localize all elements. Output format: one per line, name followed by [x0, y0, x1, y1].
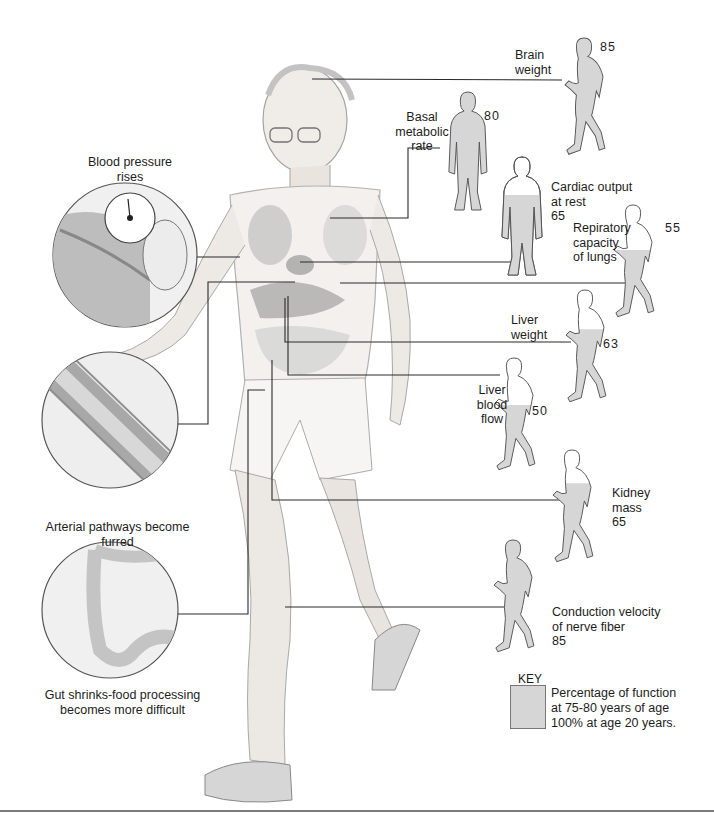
label-kidney-mass: Kidney mass 65 [612, 486, 650, 530]
label-blood-pressure: Blood pressure rises [60, 155, 200, 184]
label-line: of nerve fiber [552, 620, 660, 635]
value-liver-weight: 63 [603, 337, 619, 351]
label-line: Blood pressure [60, 155, 200, 170]
label-line: becomes more difficult [35, 703, 210, 718]
key-line: Percentage of function [551, 686, 676, 701]
label-liver-weight: Liver weight [511, 313, 547, 342]
figure-cardiac-output [502, 157, 542, 275]
label-line: of lungs [573, 250, 631, 265]
label-line: furred [35, 535, 200, 550]
label-respiratory-capacity: Repiratory capacity of lungs [573, 221, 631, 265]
value-liver-blood-flow: 50 [532, 404, 548, 418]
label-line: flow [470, 412, 514, 427]
label-line: Arterial pathways become [35, 520, 200, 535]
label-brain-weight: Brain weight [515, 48, 551, 77]
key-title: KEY [518, 672, 542, 686]
label-cardiac-output: Cardiac output at rest 65 [551, 180, 632, 224]
label-line: rises [60, 170, 200, 185]
label-line: Gut shrinks-food processing [35, 688, 210, 703]
figure-brain-weight [565, 38, 605, 154]
key-line: at 75-80 years of age [551, 701, 676, 716]
label-nerve-conduction: Conduction velocity of nerve fiber 85 [552, 605, 660, 649]
key-swatch [510, 685, 546, 729]
value-basal-metabolic-rate: 80 [484, 109, 500, 123]
label-line: Basal [392, 110, 452, 125]
label-line: Cardiac output [551, 180, 632, 195]
label-line: Brain [515, 48, 551, 63]
value-brain-weight: 85 [600, 40, 616, 54]
label-line: weight [515, 63, 551, 78]
label-line: weight [511, 328, 547, 343]
label-line: Repiratory [573, 221, 631, 236]
label-line: Liver [470, 383, 514, 398]
label-gut: Gut shrinks-food processing becomes more… [35, 688, 210, 717]
value-respiratory-capacity: 55 [665, 221, 681, 235]
label-line: metabolic [392, 125, 452, 140]
label-arterial: Arterial pathways become furred [35, 520, 200, 549]
label-line: capacity [573, 236, 631, 251]
figure-basal-metabolic-rate [449, 92, 487, 210]
label-line: Liver [511, 313, 547, 328]
label-basal-metabolic-rate: Basal metabolic rate [392, 110, 452, 154]
label-liver-blood-flow: Liver blood flow [470, 383, 514, 427]
value-kidney-mass: 65 [612, 515, 650, 530]
figure-liver-weight [566, 290, 606, 402]
label-line: at rest [551, 195, 632, 210]
key-description: Percentage of function at 75-80 years of… [551, 686, 676, 731]
figure-nerve-conduction [494, 540, 534, 652]
figure-kidney-mass [553, 450, 593, 562]
value-nerve-conduction: 85 [552, 634, 660, 649]
label-line: Kidney [612, 486, 650, 501]
bottom-divider [0, 810, 714, 812]
key-line: 100% at age 20 years. [551, 716, 676, 731]
label-line: mass [612, 501, 650, 516]
label-line: rate [392, 139, 452, 154]
label-line: blood [470, 398, 514, 413]
label-line: Conduction velocity [552, 605, 660, 620]
